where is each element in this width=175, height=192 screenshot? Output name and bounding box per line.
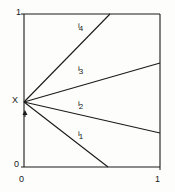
origin-arrow-marker <box>23 110 28 117</box>
x-axis-one-label: 1 <box>155 175 160 184</box>
ray-i3 <box>24 63 160 102</box>
y-axis-origin-point-label: X <box>12 96 18 105</box>
ray-label-i2: i2 <box>78 100 84 108</box>
y-axis-top-label: 1 <box>16 8 21 17</box>
ray-label-i1-subscript: 1 <box>79 132 83 141</box>
y-axis-zero-label: 0 <box>14 160 19 169</box>
tick-marks <box>21 14 160 170</box>
x-axis-zero-label: 0 <box>19 175 24 184</box>
ray-i4 <box>24 14 110 102</box>
figure-canvas <box>0 0 175 192</box>
ray-label-i1: i1 <box>78 130 84 138</box>
ray-label-i4: i4 <box>78 22 84 30</box>
figure-container: 1 X 0 0 1 i4 i3 i2 i1 <box>0 0 175 192</box>
ray-label-i2-subscript: 2 <box>79 102 83 111</box>
ray-label-i4-subscript: 4 <box>79 24 83 33</box>
ray-label-i3: i3 <box>78 65 84 73</box>
ray-label-i3-subscript: 3 <box>79 67 83 76</box>
ray-group <box>24 14 160 167</box>
plot-frame <box>24 14 160 167</box>
